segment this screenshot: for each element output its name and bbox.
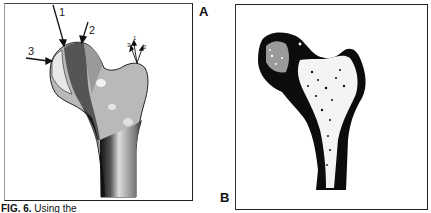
femur-radiograph-b — [258, 33, 366, 190]
small-arrow-label-2: 2 — [143, 44, 146, 50]
caption-prefix: FIG. 6. — [1, 203, 32, 213]
caption-text: Using the — [34, 203, 76, 213]
arrow-label-3: 3 — [28, 45, 34, 57]
panel-label-a: A — [199, 4, 208, 19]
panel-label-b: B — [220, 190, 229, 205]
arrow-label-1: 1 — [59, 6, 65, 18]
small-arrow-label-3: 3 — [127, 42, 130, 48]
arrow-label-2: 2 — [89, 24, 95, 36]
femur-model-a — [50, 42, 148, 197]
small-arrow-label-1: 1 — [133, 35, 136, 41]
figure-illustrations — [0, 0, 431, 213]
figure-caption: FIG. 6. Using the — [1, 203, 77, 213]
